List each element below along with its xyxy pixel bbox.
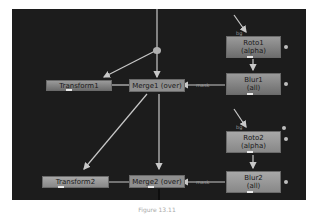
node-roto1-marker	[247, 56, 253, 58]
node-blur2[interactable]: Blur2 (all)	[226, 171, 281, 193]
node-blur2-marker	[247, 191, 253, 193]
node-merge2[interactable]: Merge2 (over)	[129, 175, 185, 188]
figure-caption: Figure 13.11	[0, 206, 314, 213]
roto2-output-dot-top[interactable]	[282, 126, 286, 130]
node-blur1-marker	[247, 93, 253, 95]
node-blur2-name: Blur2	[244, 174, 263, 182]
node-merge1-label: Merge1 (over)	[132, 82, 182, 90]
node-blur1-channel: (all)	[247, 84, 261, 92]
wire-label-mask2: mask	[196, 179, 209, 185]
roto1-output-dot[interactable]	[284, 45, 288, 49]
node-transform2-label: Transform2	[56, 178, 95, 186]
node-transform2[interactable]: Transform2	[42, 176, 109, 188]
node-merge1[interactable]: Merge1 (over)	[129, 79, 185, 92]
wire-label-mask1: mask	[196, 82, 209, 88]
node-blur2-channel: (all)	[247, 182, 261, 190]
node-merge2-label: Merge2 (over)	[132, 178, 182, 186]
node-roto2[interactable]: Roto2 (alpha)	[226, 131, 281, 153]
node-transform1-marker	[66, 89, 72, 91]
node-roto2-name: Roto2	[243, 134, 263, 142]
dot-node[interactable]	[153, 47, 161, 54]
node-roto1[interactable]: Roto1 (alpha)	[226, 36, 281, 58]
roto2-output-dot[interactable]	[284, 137, 288, 141]
node-blur1-name: Blur1	[244, 76, 263, 84]
node-roto1-name: Roto1	[243, 39, 263, 47]
node-roto2-marker	[247, 151, 253, 153]
wire-label-bg2: bg	[236, 124, 242, 130]
node-transform1[interactable]: Transform1	[46, 80, 112, 91]
node-roto1-channel: (alpha)	[241, 47, 266, 55]
node-merge2-marker	[148, 186, 154, 188]
wire-label-bg1: bg	[236, 30, 242, 36]
node-transform2-marker	[58, 186, 64, 188]
node-graph-canvas[interactable]: Roto1 (alpha) Blur1 (all) Roto2 (alpha) …	[12, 9, 306, 200]
blur1-output-dot[interactable]	[284, 82, 288, 86]
node-roto2-channel: (alpha)	[241, 142, 266, 150]
node-blur1[interactable]: Blur1 (all)	[226, 73, 281, 95]
blur2-output-dot[interactable]	[284, 180, 288, 184]
